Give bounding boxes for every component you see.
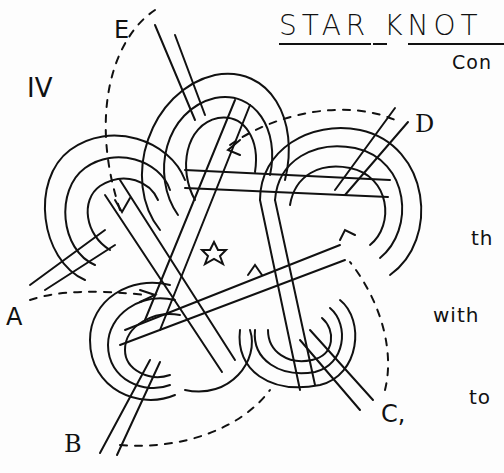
title-underline [279, 43, 371, 45]
center-star-icon [202, 242, 226, 264]
star-knot-illustration [0, 0, 504, 473]
label-strand-a: A [6, 305, 22, 329]
label-strand-b: B [64, 432, 82, 456]
diagram-page: STAR KNOT Con IV th with to E D A B C, [0, 0, 504, 473]
side-text-line: to [469, 387, 491, 407]
label-strand-d: D [415, 112, 434, 136]
strand-a [30, 230, 115, 290]
lobe-right [260, 128, 421, 275]
label-strand-c: C, [381, 402, 405, 426]
label-strand-e: E [114, 18, 129, 42]
diagram-title: STAR KNOT [279, 12, 483, 40]
side-text-line: with [433, 305, 479, 325]
title-underline [408, 43, 504, 45]
strand-b [100, 360, 160, 455]
subtitle-fragment: Con [452, 53, 492, 72]
plate-number: IV [27, 75, 52, 101]
side-text-line: th [471, 228, 494, 248]
direction-arrows [115, 140, 355, 302]
title-underline [373, 43, 387, 45]
